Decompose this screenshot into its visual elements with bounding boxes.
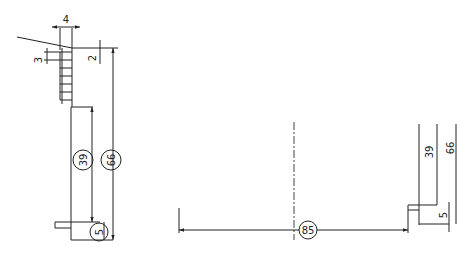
dim-pitch: 3 [33, 57, 44, 63]
dim-span: 85 [302, 225, 315, 236]
left-view-labels: 4 3 2 39 66 5 [33, 14, 117, 235]
slanted-edge [17, 37, 72, 48]
comb-teeth [60, 48, 72, 104]
dim-offset: 2 [87, 55, 98, 61]
dim-mid-height-right: 39 [424, 146, 435, 159]
right-view [179, 124, 456, 239]
dim-bottom-step: 5 [94, 229, 105, 235]
dim-total-height-right: 66 [445, 142, 456, 155]
dim-bottom-step-right: 5 [438, 212, 449, 218]
dim-total-height: 66 [106, 154, 117, 167]
dim-width-top: 4 [63, 14, 69, 25]
right-view-labels: 85 39 66 5 [302, 142, 456, 236]
dim-mid-height: 39 [78, 154, 89, 167]
technical-drawing: 4 3 2 39 66 5 85 39 66 5 [0, 0, 472, 257]
